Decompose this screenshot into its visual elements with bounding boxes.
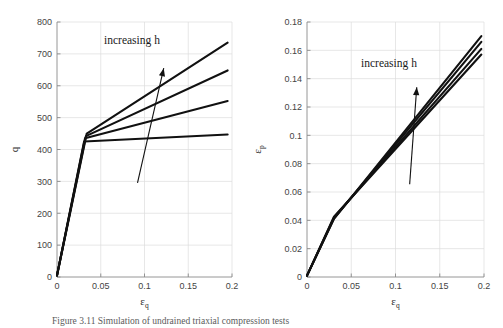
series-line-h3 — [307, 42, 481, 276]
series-line-h2 — [57, 101, 228, 275]
y-tick-label: 0 — [297, 272, 302, 282]
series-line-h1 — [307, 55, 481, 276]
y-tick-label: 0.14 — [284, 74, 302, 84]
annotation-arrow — [410, 87, 420, 184]
y-tick-label: 800 — [37, 17, 52, 27]
tick-marks: 00.050.10.150.20100200300400500600700800 — [37, 17, 238, 291]
x-tick-label: 0.1 — [138, 281, 151, 291]
y-tick-label: 300 — [37, 177, 52, 187]
y-tick-label: 0.04 — [284, 216, 302, 226]
figure-container: 00.050.10.150.20100200300400500600700800… — [0, 0, 503, 328]
data-series-group — [307, 36, 481, 275]
y-tick-label: 700 — [37, 49, 52, 59]
y-tick-label: 0.16 — [284, 46, 302, 56]
left-plot-svg: 00.050.10.150.20100200300400500600700800… — [0, 0, 251, 328]
figure-caption-row: Figure 3.11 Simulation of undrained tria… — [0, 312, 503, 328]
chart-panel-right: 00.050.10.150.200.020.040.060.080.10.120… — [251, 0, 502, 328]
x-tick-label: 0.05 — [92, 281, 110, 291]
x-tick-label: 0.15 — [431, 281, 449, 291]
series-line-h3 — [57, 70, 228, 275]
x-tick-label: 0 — [54, 281, 59, 291]
y-tick-label: 400 — [37, 145, 52, 155]
x-tick-label: 0.15 — [179, 281, 197, 291]
right-plot-svg: 00.050.10.150.200.020.040.060.080.10.120… — [251, 0, 503, 328]
x-tick-label: 0.1 — [389, 281, 402, 291]
x-tick-label: 0.2 — [226, 281, 239, 291]
y-tick-label: 0.18 — [284, 17, 302, 27]
y-axis-title: q — [8, 146, 20, 152]
y-tick-label: 100 — [37, 240, 52, 250]
y-tick-label: 0.12 — [284, 102, 302, 112]
x-axis-title: εq — [140, 295, 149, 310]
increasing-h-label: increasing h — [104, 34, 160, 47]
y-tick-label: 200 — [37, 209, 52, 219]
y-tick-label: 600 — [37, 81, 52, 91]
x-tick-label: 0.2 — [478, 281, 491, 291]
y-tick-label: 0.08 — [284, 159, 302, 169]
y-tick-label: 0.02 — [284, 244, 302, 254]
x-tick-label: 0.05 — [342, 281, 360, 291]
y-tick-label: 0.1 — [289, 131, 302, 141]
figure-caption: Figure 3.11 Simulation of undrained tria… — [52, 316, 492, 326]
y-tick-label: 0 — [47, 272, 52, 282]
y-tick-label: 500 — [37, 113, 52, 123]
y-axis-title: εp — [251, 145, 266, 154]
chart-panel-left: 00.050.10.150.20100200300400500600700800… — [0, 0, 251, 328]
series-line-h4 — [57, 43, 228, 276]
x-axis-title: εq — [391, 295, 400, 310]
y-tick-label: 0.06 — [284, 187, 302, 197]
data-series-group — [57, 43, 228, 276]
x-tick-label: 0 — [304, 281, 309, 291]
increasing-h-label: increasing h — [361, 57, 417, 70]
